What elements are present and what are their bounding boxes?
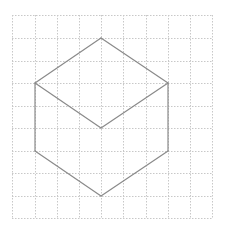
cube-edge-right-center (101, 83, 168, 128)
cube-edge-top-left (35, 38, 101, 83)
cube-edge-top-right (101, 38, 168, 83)
grid-diagram (0, 0, 225, 235)
cube-edge-left-center (35, 83, 101, 128)
